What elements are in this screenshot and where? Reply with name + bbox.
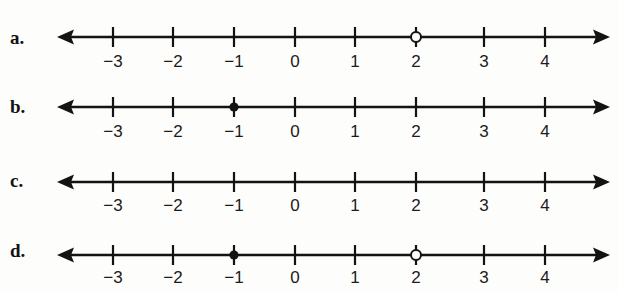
number-line-d: d.−3−2−101234 — [0, 0, 619, 70]
number-line-worksheet: a.−3−2−101234b.−3−2−101234c.−3−2−101234d… — [0, 0, 619, 293]
closed-dot-at-minus-1 — [229, 250, 238, 259]
axis-tick-label: 1 — [338, 268, 372, 288]
axis-tick-label: −3 — [96, 268, 130, 288]
axis-tick-label: 3 — [467, 268, 501, 288]
axis-graphic — [0, 0, 619, 293]
axis-tick-label: 0 — [278, 268, 312, 288]
axis-tick-label: 4 — [528, 268, 562, 288]
axis-tick-label: 2 — [399, 268, 433, 288]
axis-tick-label: −2 — [156, 268, 190, 288]
open-circle-at-2 — [411, 250, 421, 260]
axis-tick-label: −1 — [217, 268, 251, 288]
